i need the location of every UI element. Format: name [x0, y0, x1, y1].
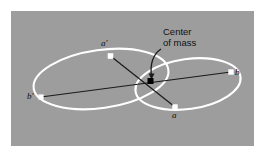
orbit-diagram-canvas: [0, 0, 266, 160]
point-label-a: a: [172, 111, 177, 120]
point-b: [228, 69, 233, 74]
center-of-mass-label-line2: of mass: [163, 38, 196, 49]
point-label-a-prime: a′: [101, 39, 107, 48]
point-a-prime: [108, 53, 114, 59]
point-label-b-prime: b′: [27, 92, 33, 101]
point-a: [172, 104, 177, 109]
center-of-mass-point: [148, 78, 154, 84]
point-b-prime: [38, 94, 43, 99]
figure-root: Center of mass a′ b′ b a: [0, 0, 266, 160]
point-label-b: b: [235, 68, 240, 77]
center-of-mass-label-line1: Center: [163, 27, 196, 38]
center-of-mass-label: Center of mass: [163, 27, 196, 48]
